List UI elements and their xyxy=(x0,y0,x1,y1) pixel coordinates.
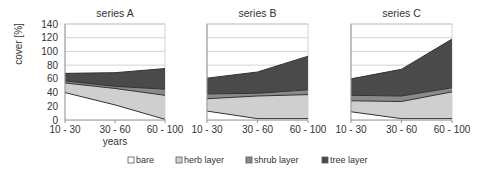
panel-title: series A xyxy=(96,7,133,19)
y-tick-label: 60 xyxy=(47,73,59,84)
chart-panels: series A10 - 3030 - 6060 - 100series B10… xyxy=(49,7,470,135)
legend-item-herb-layer: herb layer xyxy=(176,155,224,165)
legend-item-shrub-layer: shrub layer xyxy=(246,155,299,165)
x-tick-label: 60 - 100 xyxy=(290,124,327,135)
x-tick-label: 10 - 30 xyxy=(191,124,223,135)
y-tick-label: 40 xyxy=(47,87,59,98)
legend-item-tree-layer: tree layer xyxy=(322,155,368,165)
y-tick-label: 20 xyxy=(47,101,59,112)
legend-swatch xyxy=(176,157,182,163)
panel-title: series C xyxy=(382,7,421,19)
legend-label: tree layer xyxy=(330,155,368,165)
panel-title: series B xyxy=(239,7,277,19)
y-tick-label: 120 xyxy=(41,32,58,43)
legend-swatch xyxy=(128,157,134,163)
legend: bareherb layershrub layertree layer xyxy=(128,155,368,165)
legend-label: shrub layer xyxy=(254,155,299,165)
y-axis-ticks: 020406080100120140 xyxy=(41,19,58,126)
x-tick-label: 60 - 100 xyxy=(434,124,471,135)
x-tick-label: 10 - 30 xyxy=(335,124,367,135)
y-tick-label: 100 xyxy=(41,46,58,57)
x-tick-label: 10 - 30 xyxy=(49,124,81,135)
legend-label: herb layer xyxy=(184,155,224,165)
x-tick-label: 30 - 60 xyxy=(99,124,131,135)
x-tick-label: 30 - 60 xyxy=(242,124,274,135)
y-tick-label: 140 xyxy=(41,19,58,30)
chart-panel-b: series B10 - 3030 - 6060 - 100 xyxy=(191,7,326,135)
y-tick-label: 80 xyxy=(47,60,59,71)
chart-panel-c: series C10 - 3030 - 6060 - 100 xyxy=(335,7,470,135)
y-axis-label: cover [%] xyxy=(13,23,24,65)
x-axis-label: years xyxy=(103,136,127,147)
x-tick-label: 60 - 100 xyxy=(147,124,184,135)
chart-canvas: cover [%] 020406080100120140 series A10 … xyxy=(0,0,480,174)
legend-item-bare: bare xyxy=(128,155,154,165)
chart-panel-a: series A10 - 3030 - 6060 - 100 xyxy=(49,7,183,135)
legend-label: bare xyxy=(136,155,154,165)
x-tick-label: 30 - 60 xyxy=(386,124,418,135)
legend-swatch xyxy=(246,157,252,163)
legend-swatch xyxy=(322,157,328,163)
